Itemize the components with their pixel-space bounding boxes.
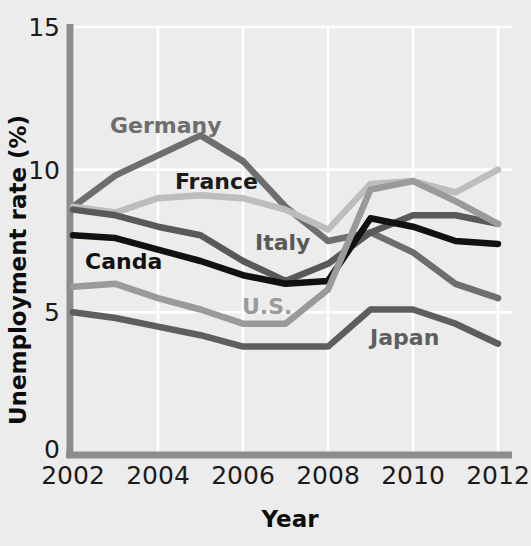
x-tick-label: 2006 [211, 461, 275, 490]
x-tick-label: 2004 [126, 461, 190, 490]
x-tick-label: 2008 [296, 461, 360, 490]
chart-canvas: 051015 200220042006200820102012 GermanyF… [0, 0, 531, 546]
series-label-canda: Canda [85, 249, 162, 274]
series-label-italy: Italy [255, 230, 310, 255]
y-axis-title: Unemployment rate (%) [5, 115, 31, 425]
x-tick-label: 2002 [41, 461, 105, 490]
y-tick-label: 15 [28, 13, 60, 42]
x-axis-title: Year [260, 506, 319, 532]
unemployment-rate-line-chart: 051015 200220042006200820102012 GermanyF… [0, 0, 531, 546]
y-tick-label: 5 [44, 298, 60, 327]
x-tick-label: 2010 [381, 461, 445, 490]
y-tick-label: 0 [44, 435, 60, 464]
series-label-japan: Japan [368, 325, 439, 350]
x-tick-label: 2012 [466, 461, 530, 490]
series-label-us: U.S. [242, 294, 292, 319]
series-label-france: France [175, 169, 258, 194]
y-tick-label: 10 [28, 156, 60, 185]
series-label-germany: Germany [110, 113, 222, 138]
